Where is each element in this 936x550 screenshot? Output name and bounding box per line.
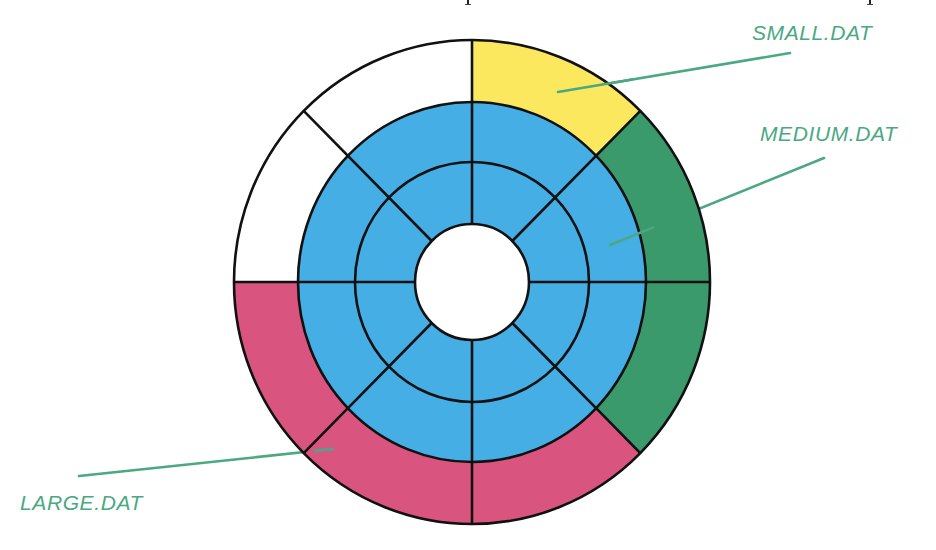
label-large-dat: LARGE.DAT: [20, 492, 143, 513]
cutoff-glyph-mark: [869, 0, 871, 5]
disk-diagram: [0, 0, 936, 550]
leader-line-large: [79, 449, 333, 476]
disk-allocation-diagram: SMALL.DAT MEDIUM.DAT LARGE.DAT: [0, 0, 936, 550]
label-small-dat: SMALL.DAT: [752, 22, 873, 43]
cutoff-glyph-mark: [467, 0, 469, 5]
label-medium-dat: MEDIUM.DAT: [760, 123, 897, 144]
leader-line-tip-large: [315, 449, 333, 451]
